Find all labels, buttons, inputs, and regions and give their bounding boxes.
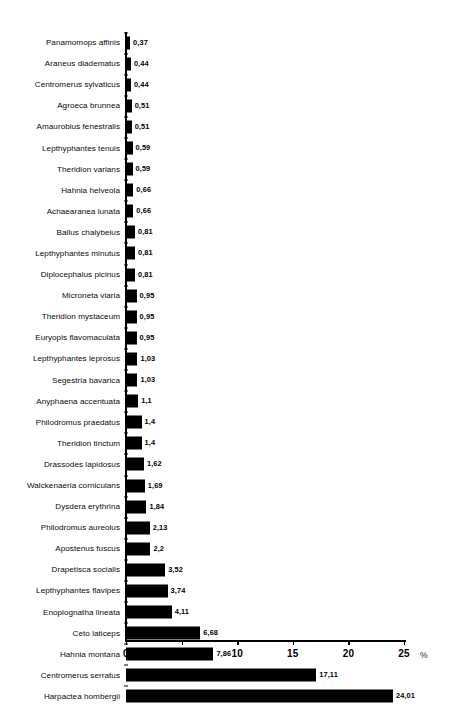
category-label: Lepthyphantes tenuis bbox=[0, 144, 124, 153]
category-label: Amaurobius fenestralis bbox=[0, 122, 124, 131]
x-axis-line bbox=[126, 640, 406, 642]
bar bbox=[126, 310, 137, 323]
bar-row: Hahnia helveola0,66 bbox=[0, 180, 449, 201]
bar-plot-cell: 17,11 bbox=[124, 665, 449, 686]
bar-plot-cell: 0,59 bbox=[124, 137, 449, 158]
category-label: Achaearanea lunata bbox=[0, 207, 124, 216]
bar-row: Drapetisca socialis3,52 bbox=[0, 559, 449, 580]
category-label: Centromerus sylvaticus bbox=[0, 80, 124, 89]
x-axis-tick bbox=[348, 640, 349, 645]
bar-row: Lepthyphantes leprosus1,03 bbox=[0, 348, 449, 369]
bar-value-label: 1,4 bbox=[145, 439, 156, 447]
bar-value-label: 2,13 bbox=[153, 524, 168, 532]
bar-row: Achaearanea lunata0,66 bbox=[0, 201, 449, 222]
x-axis-tick bbox=[237, 640, 238, 645]
category-label: Anyphaena accentuata bbox=[0, 397, 124, 406]
bar-value-label: 24,01 bbox=[396, 692, 415, 700]
bar-value-label: 0,95 bbox=[140, 334, 155, 342]
category-label: Harpactea hombergii bbox=[0, 692, 124, 701]
bar-value-label: 1,62 bbox=[147, 460, 162, 468]
bar-plot-cell: 0,51 bbox=[124, 116, 449, 137]
bar bbox=[126, 163, 133, 176]
bar-plot-cell: 1,4 bbox=[124, 433, 449, 454]
bar bbox=[126, 542, 150, 555]
x-axis-tick bbox=[182, 640, 183, 645]
bar bbox=[126, 247, 135, 260]
bar-value-label: 3,74 bbox=[171, 587, 186, 595]
bar bbox=[126, 584, 168, 597]
bar-value-label: 0,95 bbox=[140, 292, 155, 300]
category-label: Philodromus praedatus bbox=[0, 418, 124, 427]
x-axis-tick bbox=[126, 640, 127, 645]
bar-row: Philodromus praedatus1,4 bbox=[0, 412, 449, 433]
bar-row: Diplocephalus picinus0,81 bbox=[0, 264, 449, 285]
bar bbox=[126, 627, 200, 640]
bar-value-label: 0,59 bbox=[136, 165, 151, 173]
bar-plot-cell: 1,03 bbox=[124, 370, 449, 391]
bar-value-label: 1,1 bbox=[141, 397, 152, 405]
bar bbox=[126, 606, 172, 619]
bar-value-label: 0,44 bbox=[134, 60, 149, 68]
bar-value-label: 1,03 bbox=[140, 355, 155, 363]
x-axis-tick-label: 20 bbox=[343, 648, 355, 659]
bar-plot-cell: 0,44 bbox=[124, 74, 449, 95]
bar-value-label: 0,37 bbox=[133, 39, 148, 47]
bar bbox=[126, 458, 144, 471]
category-label: Ceto laticeps bbox=[0, 629, 124, 638]
bar bbox=[126, 99, 132, 112]
bar-row: Theridion varians0,59 bbox=[0, 159, 449, 180]
category-label: Diplocephalus picinus bbox=[0, 270, 124, 279]
bar-value-label: 17,11 bbox=[319, 671, 338, 679]
bar bbox=[126, 374, 137, 387]
bar-plot-cell: 0,66 bbox=[124, 180, 449, 201]
bar-value-label: 4,11 bbox=[175, 608, 189, 616]
bar bbox=[126, 331, 137, 344]
category-label: Lepthyphantes leprosus bbox=[0, 354, 124, 363]
bar-row: Enoplognatha lineata4,11 bbox=[0, 602, 449, 623]
category-label: Lepthyphantes minutus bbox=[0, 249, 124, 258]
bar-value-label: 2,2 bbox=[153, 545, 164, 553]
category-label: Theridion mystaceum bbox=[0, 312, 124, 321]
category-label: Theridion varians bbox=[0, 165, 124, 174]
bar bbox=[126, 690, 393, 703]
bar-value-label: 0,59 bbox=[136, 144, 151, 152]
bar-row: Anyphaena accentuata1,1 bbox=[0, 391, 449, 412]
bar-plot-cell: 0,66 bbox=[124, 201, 449, 222]
bar-value-label: 0,81 bbox=[138, 271, 153, 279]
bar-row: Centromerus sylvaticus0,44 bbox=[0, 74, 449, 95]
bar-row: Walckenaeria corniculans1,69 bbox=[0, 475, 449, 496]
bar-value-label: 1,4 bbox=[145, 418, 156, 426]
category-label: Theridion tinctum bbox=[0, 439, 124, 448]
category-label: Centromerus serratus bbox=[0, 671, 124, 680]
category-label: Drassodes lapidosus bbox=[0, 460, 124, 469]
bar-plot-cell: 3,52 bbox=[124, 559, 449, 580]
y-axis-tick bbox=[124, 665, 128, 666]
category-label: Walckenaeria corniculans bbox=[0, 481, 124, 490]
bar bbox=[126, 289, 137, 302]
bar-row: Lepthyphantes tenuis0,59 bbox=[0, 137, 449, 158]
bar bbox=[126, 416, 142, 429]
x-axis-tick bbox=[293, 640, 294, 645]
bar-value-label: 0,81 bbox=[138, 228, 153, 236]
x-axis-tick bbox=[404, 640, 405, 645]
y-axis-line bbox=[125, 32, 126, 642]
x-axis-tick-label: 0 bbox=[123, 648, 129, 659]
bar-row: Theridion tinctum1,4 bbox=[0, 433, 449, 454]
bar-plot-cell: 2,2 bbox=[124, 538, 449, 559]
bar-row: Centromerus serratus17,11 bbox=[0, 665, 449, 686]
bar-plot-cell: 1,03 bbox=[124, 348, 449, 369]
bar bbox=[126, 437, 142, 450]
bar-row: Euryopis flavomaculata0,95 bbox=[0, 327, 449, 348]
bar-row: Theridion mystaceum0,95 bbox=[0, 306, 449, 327]
bar-row: Agroeca brunnea0,51 bbox=[0, 95, 449, 116]
bar-value-label: 1,03 bbox=[140, 376, 155, 384]
bar-row: Apostenus fuscus2,2 bbox=[0, 538, 449, 559]
bar-value-label: 7,86 bbox=[216, 650, 231, 658]
bar bbox=[126, 184, 133, 197]
bar-value-label: 3,52 bbox=[168, 566, 183, 574]
bar-plot-cell: 0,81 bbox=[124, 243, 449, 264]
bar-row: Harpactea hombergii24,01 bbox=[0, 686, 449, 707]
category-label: Microneta viaria bbox=[0, 291, 124, 300]
bar-plot-cell: 0,44 bbox=[124, 53, 449, 74]
